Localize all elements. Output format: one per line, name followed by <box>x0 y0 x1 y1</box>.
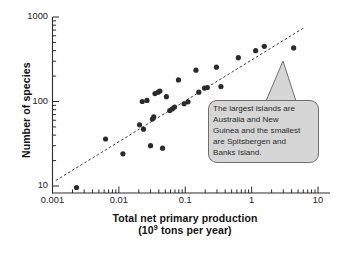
y-tick-label: 1000 <box>8 11 48 21</box>
x-tick-label: 1 <box>228 195 276 205</box>
callout-tail <box>266 61 296 103</box>
data-point <box>218 84 223 89</box>
data-point <box>148 143 153 148</box>
data-point <box>236 55 241 60</box>
x-axis-title: Total net primary production (109 tons p… <box>51 212 319 237</box>
data-point <box>291 45 296 50</box>
x-axis-title-units-post: tons per year) <box>158 224 232 236</box>
x-tick-label: 0.001 <box>29 195 77 205</box>
y-tick-label: 100 <box>8 96 48 106</box>
data-point <box>137 122 142 127</box>
x-tick-label: 10 <box>294 195 342 205</box>
x-axis-title-units-pre: (10 <box>138 224 153 236</box>
chart-figure: Number of species Total net primary prod… <box>0 0 342 256</box>
data-point <box>120 151 125 156</box>
callout-line-1: The largest islands are <box>213 103 317 114</box>
callout-line-5: Banks Island. <box>213 147 317 158</box>
data-point <box>141 127 146 132</box>
data-point <box>140 99 145 104</box>
data-point <box>144 98 149 103</box>
y-axis-title: Number of species <box>20 35 32 185</box>
data-point <box>172 104 177 109</box>
data-point <box>164 94 169 99</box>
data-point <box>205 85 210 90</box>
data-point <box>196 90 201 95</box>
data-point <box>151 114 156 119</box>
data-point <box>74 185 79 190</box>
y-tick-label: 10 <box>8 180 48 190</box>
callout-line-3: Guinea and the smallest <box>213 125 317 136</box>
y-axis-ticks <box>53 17 60 186</box>
x-axis-ticks <box>53 187 319 194</box>
x-tick-label: 0.1 <box>161 195 209 205</box>
x-axis-title-line1: Total net primary production <box>113 212 258 224</box>
callout-line-4: are Spitsbergen and <box>213 136 317 147</box>
callout-line-2: Australia and New <box>213 114 317 125</box>
data-point <box>157 88 162 93</box>
callout-text: The largest islands are Australia and Ne… <box>213 103 317 158</box>
data-point <box>176 77 181 82</box>
data-point <box>253 48 258 53</box>
data-point <box>103 136 108 141</box>
x-tick-label: 0.01 <box>95 195 143 205</box>
data-point <box>160 146 165 151</box>
x-axis-title-line2: (109 tons per year) <box>51 224 319 236</box>
data-point <box>262 44 267 49</box>
data-point <box>193 68 198 73</box>
data-point <box>185 99 190 104</box>
data-point <box>214 65 219 70</box>
